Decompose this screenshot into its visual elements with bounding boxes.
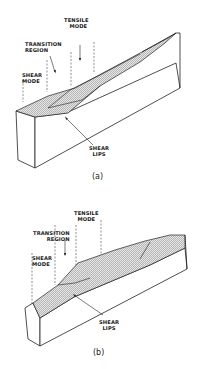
caption-a: (a) [92, 172, 103, 181]
arrow-icon [54, 70, 56, 73]
tensile-mode-label-b: TENSILE MODE [74, 210, 99, 222]
specimen-b-drawing [0, 185, 199, 369]
shear-lips-label-b: SHEAR LIPS [99, 319, 119, 331]
shear-mode-label-a: SHEAR MODE [22, 72, 42, 84]
specimen-a-end-face [16, 111, 35, 168]
arrow-icon [79, 58, 81, 61]
arrow-icon [64, 253, 66, 256]
specimen-a-drawing [0, 0, 199, 185]
transition-region-label-b: TRANSITION REGION [33, 230, 70, 242]
caption-b: (b) [93, 348, 104, 357]
tensile-mode-label-a: TENSILE MODE [64, 17, 89, 29]
panel-a: TENSILE MODE TRANSITION REGION SHEAR MOD… [0, 0, 199, 185]
panel-b: TENSILE MODE TRANSITION REGION SHEAR MOD… [0, 185, 199, 369]
transition-region-label-a: TRANSITION REGION [25, 41, 62, 53]
shear-lips-label-a: SHEAR LIPS [89, 145, 109, 157]
shear-mode-label-b: SHEAR MODE [32, 255, 52, 267]
